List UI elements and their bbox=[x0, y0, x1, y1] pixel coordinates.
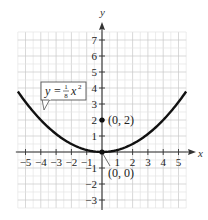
y-tick-label: 7 bbox=[92, 34, 98, 46]
x-axis-label: x bbox=[197, 147, 203, 159]
parabola-chart: −5−4−3−2−1123457654321−1−2−3 (0, 2)(0, 0… bbox=[0, 0, 208, 220]
focus-label: (0, 2) bbox=[108, 113, 134, 127]
y-axis-label: y bbox=[99, 6, 105, 18]
equation-x: x bbox=[70, 84, 77, 98]
y-tick-label: 4 bbox=[92, 82, 98, 94]
vertex-label: (0, 0) bbox=[108, 166, 134, 180]
x-tick-label: −5 bbox=[20, 156, 32, 168]
equation-exp: 2 bbox=[78, 83, 82, 91]
point-marker bbox=[99, 117, 104, 122]
y-tick-label: −3 bbox=[85, 194, 97, 206]
x-tick-label: 4 bbox=[160, 156, 166, 168]
y-tick-label: 6 bbox=[92, 50, 98, 62]
equation-num: 1 bbox=[64, 83, 68, 91]
x-tick-label: −4 bbox=[35, 156, 47, 168]
equation-y: y = bbox=[44, 84, 61, 98]
y-tick-label: 2 bbox=[92, 114, 98, 126]
y-tick-label: −1 bbox=[85, 162, 97, 174]
y-tick-label: −2 bbox=[85, 178, 97, 190]
y-tick-label: 1 bbox=[92, 130, 98, 142]
x-tick-label: −3 bbox=[50, 156, 62, 168]
x-tick-label: 3 bbox=[145, 156, 151, 168]
point-marker bbox=[99, 149, 104, 154]
axes bbox=[16, 22, 196, 210]
x-tick-label: 5 bbox=[176, 156, 182, 168]
y-tick-label: 3 bbox=[92, 98, 98, 110]
equation-den: 8 bbox=[64, 92, 68, 100]
y-tick-label: 5 bbox=[92, 66, 98, 78]
x-tick-label: −2 bbox=[66, 156, 78, 168]
